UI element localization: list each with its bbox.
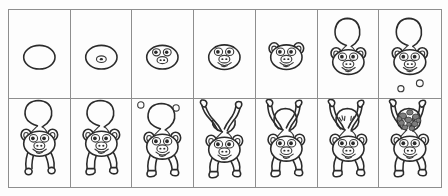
step-cell: Step 9 bbox=[71, 99, 133, 188]
step-grid: Step 1 Step 2 Step 3 bbox=[8, 9, 442, 188]
step-cell: Step 5 bbox=[256, 10, 318, 99]
tutorial-figure: Step 1 Step 2 Step 3 bbox=[0, 0, 448, 196]
step-cell: Step 1 bbox=[9, 10, 71, 99]
step-cell: Step 14 bbox=[379, 99, 441, 188]
step-cell: Step 13 bbox=[318, 99, 380, 188]
step-cell: Step 8 bbox=[9, 99, 71, 188]
step-cell: Step 4 bbox=[194, 10, 256, 99]
step-cell: Step 6 bbox=[318, 10, 380, 99]
step-cell: Step 7 bbox=[379, 10, 441, 99]
step-cell: Step 10 bbox=[132, 99, 194, 188]
step-cell: Step 12 bbox=[256, 99, 318, 188]
step-cell: Step 3 bbox=[132, 10, 194, 99]
step-cell: Step 11 bbox=[194, 99, 256, 188]
step-cell: Step 2 bbox=[71, 10, 133, 99]
